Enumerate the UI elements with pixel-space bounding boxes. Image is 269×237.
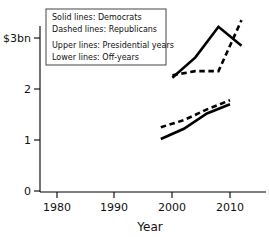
y-tick-label-1: 1: [24, 134, 31, 147]
series-republicans-offyears: [161, 100, 230, 127]
y-tick-label-2: 2: [24, 83, 31, 96]
y-tick-label-3bn: $3bn: [3, 32, 31, 45]
x-tick-label-1980: 1980: [43, 201, 71, 214]
legend-item-upper-presidential: Upper lines: Presidential years: [52, 41, 174, 50]
x-tick-label-1990: 1990: [100, 201, 128, 214]
x-tick-label-2010: 2010: [216, 201, 244, 214]
y-tick-label-0: 0: [24, 185, 31, 198]
x-tick-label-2000: 2000: [158, 201, 186, 214]
legend: Solid lines: Democrats Dashed lines: Rep…: [46, 9, 174, 65]
series-democrats-presidential: [172, 27, 241, 78]
chart-container: $3bn 2 1 0 1980 1990 2000 2010 Year Soli…: [0, 0, 269, 237]
legend-item-solid-democrats: Solid lines: Democrats: [52, 13, 142, 22]
legend-item-dashed-republicans: Dashed lines: Republicans: [52, 25, 157, 34]
series-democrats-offyears: [161, 104, 230, 139]
legend-item-lower-offyears: Lower lines: Off-years: [52, 53, 139, 62]
x-axis-title: Year: [136, 220, 162, 234]
line-chart: $3bn 2 1 0 1980 1990 2000 2010 Year Soli…: [0, 0, 269, 237]
